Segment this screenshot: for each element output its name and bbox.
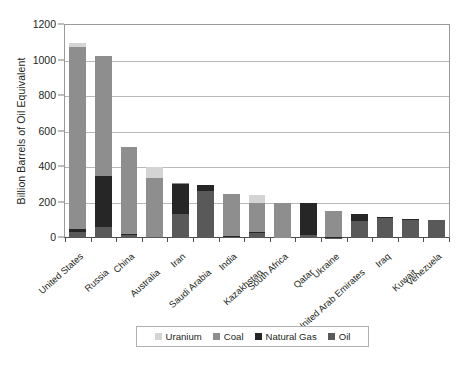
legend-item[interactable]: Uranium [155, 331, 202, 342]
legend-label: Coal [224, 331, 244, 342]
legend-label: Uranium [166, 331, 202, 342]
chart-legend: UraniumCoalNatural GasOil [136, 326, 369, 347]
legend-swatch-icon [255, 333, 262, 340]
legend-swatch-icon [155, 333, 162, 340]
legend-label: Oil [339, 331, 351, 342]
chart-figure: Billion Barrels of Oil Equivalent 020040… [0, 0, 469, 368]
legend-label: Natural Gas [266, 331, 317, 342]
x-axis-tick-label: Iraq [97, 251, 393, 368]
legend-swatch-icon [328, 333, 335, 340]
legend-swatch-icon [213, 333, 220, 340]
x-axis-labels: United StatesRussiaChinaAustraliaIranSau… [0, 0, 469, 330]
legend-item[interactable]: Coal [213, 331, 244, 342]
legend-item[interactable]: Natural Gas [255, 331, 317, 342]
legend-item[interactable]: Oil [328, 331, 351, 342]
